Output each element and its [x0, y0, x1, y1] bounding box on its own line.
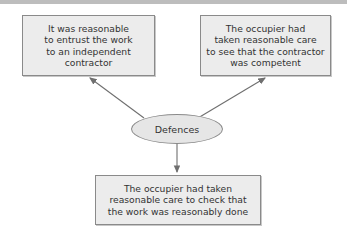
box-text-line: the work was reasonably done: [108, 206, 248, 218]
box-text-line: to an independent: [44, 46, 132, 58]
box-text-line: reasonable care to check that: [108, 194, 248, 206]
box-text-line: taken reasonable care: [206, 34, 324, 46]
box-text-line: The occupier had: [206, 23, 324, 35]
defence-box-contractor-competent: The occupier had taken reasonable care t…: [200, 15, 331, 76]
arrow-to-top-left: [90, 78, 144, 118]
center-label: Defences: [155, 124, 199, 135]
box-text-line: The occupier had taken: [108, 183, 248, 195]
box-text-line: was competent: [206, 57, 324, 69]
arrow-to-top-right: [198, 78, 265, 118]
defence-box-work-reasonably-done: The occupier had taken reasonable care t…: [95, 175, 261, 225]
box-text-line: to see that the contractor: [206, 46, 324, 58]
defence-box-reasonable-entrust: It was reasonable to entrust the work to…: [22, 15, 155, 76]
box-text-line: It was reasonable: [44, 23, 132, 35]
defences-center-node: Defences: [131, 114, 223, 144]
box-text-line: contractor: [44, 57, 132, 69]
box-text-line: to entrust the work: [44, 34, 132, 46]
